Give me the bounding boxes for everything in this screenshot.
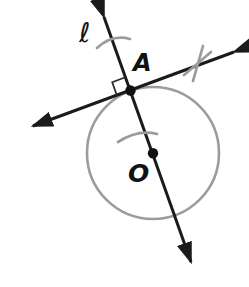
point-a-dot: [125, 85, 135, 95]
center-o-label: O: [128, 159, 149, 188]
geometry-diagram: ℓ A O: [0, 0, 249, 287]
point-a-label: A: [131, 49, 152, 77]
point-o-dot: [148, 148, 158, 158]
line-label-ell: ℓ: [78, 17, 90, 48]
diagram-canvas: ℓ A O: [0, 0, 249, 287]
tick-mark-lower: [118, 133, 157, 142]
